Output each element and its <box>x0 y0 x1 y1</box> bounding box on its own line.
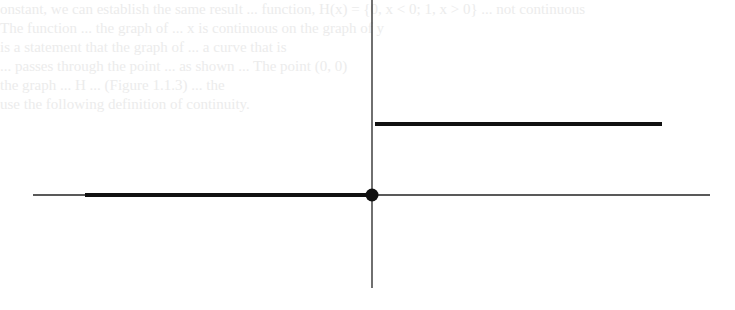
step-function-graph <box>0 0 735 310</box>
origin-closed-dot <box>366 189 379 202</box>
